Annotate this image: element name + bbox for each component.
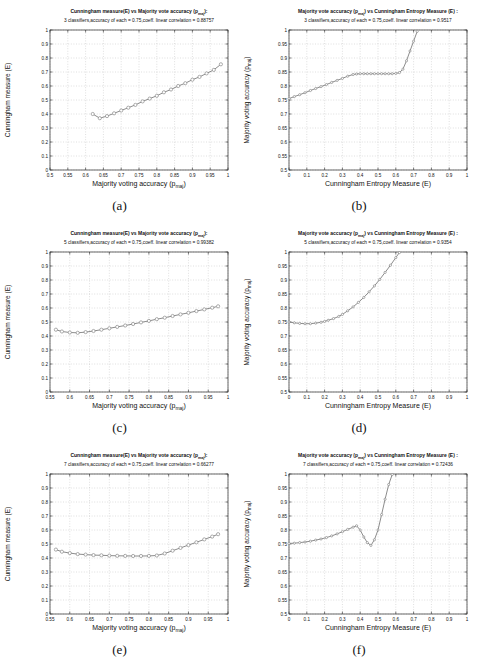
x-axis-label: Cunningham Entropy Measure (E): [325, 180, 431, 188]
svg-text:0.8: 0.8: [428, 617, 435, 622]
svg-text:0.95: 0.95: [204, 617, 213, 622]
svg-text:0.7: 0.7: [281, 556, 288, 561]
svg-text:0.55: 0.55: [46, 395, 55, 400]
svg-text:0.5: 0.5: [47, 173, 54, 178]
svg-text:0.6: 0.6: [82, 173, 89, 178]
svg-text:0.1: 0.1: [42, 376, 49, 381]
chart-d-canvas: 00.10.20.30.40.50.60.70.80.910.50.550.60…: [239, 222, 478, 420]
svg-text:0.6: 0.6: [393, 173, 400, 178]
svg-text:0.9: 0.9: [446, 617, 453, 622]
svg-text:0: 0: [45, 168, 48, 173]
chart-subtitle: 5 classifiers,accuracy of each = 0.75,co…: [64, 240, 214, 245]
svg-text:0.5: 0.5: [42, 98, 49, 103]
svg-text:1: 1: [284, 28, 287, 33]
svg-text:0.4: 0.4: [42, 556, 49, 561]
chart-subtitle: 3 classifiers,accuracy of each = 0.75,co…: [64, 18, 214, 23]
svg-text:0.5: 0.5: [375, 617, 382, 622]
svg-text:1: 1: [227, 173, 230, 178]
svg-text:0.9: 0.9: [185, 395, 192, 400]
svg-text:0.2: 0.2: [42, 140, 49, 145]
svg-text:0.6: 0.6: [42, 528, 49, 533]
svg-text:0.85: 0.85: [164, 617, 173, 622]
svg-text:0.1: 0.1: [304, 395, 311, 400]
subplot-e-caption: (e): [0, 642, 239, 658]
svg-text:0.4: 0.4: [357, 173, 364, 178]
svg-text:0.6: 0.6: [393, 395, 400, 400]
svg-text:0.6: 0.6: [67, 395, 74, 400]
chart-c-canvas: 0.550.60.650.70.750.80.850.90.95100.10.2…: [0, 222, 239, 420]
chart-subtitle: 3 classifiers,accuracy of each = 0.75,co…: [304, 18, 452, 23]
svg-text:0.9: 0.9: [446, 395, 453, 400]
svg-text:0.95: 0.95: [278, 264, 287, 269]
svg-text:0.5: 0.5: [281, 390, 288, 395]
svg-text:0.9: 0.9: [185, 617, 192, 622]
chart-a-canvas: 0.50.550.60.650.70.750.80.850.90.95100.1…: [0, 0, 239, 198]
chart-subtitle: 5 classifiers,accuracy of each = 0.75,co…: [304, 240, 452, 245]
svg-text:0.6: 0.6: [281, 140, 288, 145]
svg-text:0.7: 0.7: [410, 395, 417, 400]
svg-text:0.8: 0.8: [42, 278, 49, 283]
svg-text:0.8: 0.8: [281, 84, 288, 89]
svg-text:0.2: 0.2: [42, 584, 49, 589]
svg-text:0: 0: [288, 173, 291, 178]
svg-text:0.55: 0.55: [278, 376, 287, 381]
svg-text:0.55: 0.55: [46, 617, 55, 622]
svg-text:0.95: 0.95: [278, 486, 287, 491]
svg-text:0.6: 0.6: [393, 617, 400, 622]
chart-e-canvas: 0.550.60.650.70.750.80.850.90.95100.10.2…: [0, 444, 239, 642]
svg-text:0.4: 0.4: [357, 617, 364, 622]
svg-text:0.9: 0.9: [42, 486, 49, 491]
svg-text:0.65: 0.65: [85, 395, 94, 400]
svg-text:0: 0: [288, 395, 291, 400]
svg-text:0.5: 0.5: [375, 173, 382, 178]
svg-text:1: 1: [466, 395, 469, 400]
svg-text:0.85: 0.85: [278, 514, 287, 519]
svg-text:0.1: 0.1: [304, 173, 311, 178]
subplot-c-caption: (c): [0, 420, 239, 436]
svg-text:0.75: 0.75: [135, 173, 144, 178]
y-axis-label: Cunningham measure (E): [4, 63, 12, 137]
svg-text:0.95: 0.95: [204, 395, 213, 400]
svg-text:0.5: 0.5: [375, 395, 382, 400]
svg-text:0: 0: [288, 617, 291, 622]
svg-text:0.7: 0.7: [281, 334, 288, 339]
svg-text:0.9: 0.9: [446, 173, 453, 178]
svg-text:0.7: 0.7: [106, 395, 113, 400]
svg-text:0.2: 0.2: [321, 617, 328, 622]
svg-text:1: 1: [45, 472, 48, 477]
svg-text:0.55: 0.55: [278, 598, 287, 603]
chart-subtitle: 7 classifiers,accuracy of each = 0.75,co…: [303, 462, 453, 467]
chart-f-canvas: 00.10.20.30.40.50.60.70.80.910.50.550.60…: [239, 444, 478, 642]
subplot-a-caption: (a): [0, 198, 239, 214]
svg-text:0.95: 0.95: [278, 42, 287, 47]
svg-text:0.7: 0.7: [281, 112, 288, 117]
svg-text:0.6: 0.6: [42, 306, 49, 311]
y-axis-label: Cunningham measure (E): [4, 285, 12, 359]
svg-text:0.65: 0.65: [278, 348, 287, 353]
svg-text:0.3: 0.3: [339, 395, 346, 400]
svg-text:0.9: 0.9: [281, 56, 288, 61]
svg-text:0.95: 0.95: [206, 173, 215, 178]
svg-text:0.55: 0.55: [278, 154, 287, 159]
subplot-a: 0.50.550.60.650.70.750.80.850.90.95100.1…: [0, 0, 239, 222]
svg-text:0.65: 0.65: [99, 173, 108, 178]
svg-text:0.7: 0.7: [106, 617, 113, 622]
svg-text:0.5: 0.5: [281, 168, 288, 173]
svg-text:0.75: 0.75: [278, 320, 287, 325]
svg-text:0.9: 0.9: [281, 500, 288, 505]
svg-text:1: 1: [284, 472, 287, 477]
svg-text:0.7: 0.7: [42, 292, 49, 297]
svg-text:0.65: 0.65: [85, 617, 94, 622]
svg-text:1: 1: [466, 173, 469, 178]
subplot-b-caption: (b): [239, 198, 479, 214]
svg-text:0.75: 0.75: [278, 542, 287, 547]
svg-text:0.85: 0.85: [164, 395, 173, 400]
svg-text:0.1: 0.1: [42, 154, 49, 159]
svg-text:0.4: 0.4: [42, 334, 49, 339]
svg-text:0.8: 0.8: [428, 173, 435, 178]
svg-text:0.3: 0.3: [339, 173, 346, 178]
svg-text:0.8: 0.8: [42, 56, 49, 61]
svg-text:0.2: 0.2: [42, 362, 49, 367]
svg-text:0.5: 0.5: [42, 320, 49, 325]
svg-text:0.4: 0.4: [357, 395, 364, 400]
